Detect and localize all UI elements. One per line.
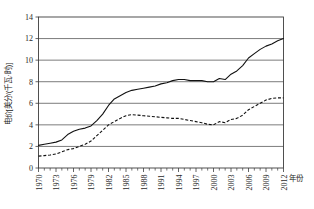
y-tick-label: 8 [29, 78, 33, 87]
y-tick-label: 4 [29, 121, 33, 130]
y-tick-label: 14 [25, 13, 33, 22]
data-series [39, 39, 284, 157]
x-axis-tick-labels: 1970197319761979198219851988199119941997… [35, 175, 289, 191]
y-tick-label: 0 [29, 164, 33, 173]
x-tick-label: 2012 [280, 175, 289, 191]
electricity-price-chart: 02468101214 1970197319761979198219851988… [0, 0, 314, 209]
x-tick-label: 1976 [70, 175, 79, 191]
x-tick-label: 1988 [140, 175, 149, 191]
y-tick-label: 6 [29, 99, 33, 108]
x-tick-label: 1997 [192, 175, 201, 191]
y-tick-label: 2 [29, 142, 33, 151]
x-tick-label: 2000 [210, 175, 219, 191]
y-tick-label: 10 [25, 56, 33, 65]
plot-border [39, 17, 284, 168]
x-tick-label: 1979 [87, 175, 96, 191]
series-line-solid [39, 39, 284, 146]
x-tick-label: 1970 [35, 175, 44, 191]
x-tick-label: 2006 [245, 175, 254, 191]
x-tick-label: 1994 [175, 175, 184, 191]
x-tick-label: 2003 [227, 175, 236, 191]
series-line-dashed [39, 98, 284, 156]
x-axis-title: 年份 [289, 173, 304, 183]
svg-text:电价[美分/(千瓦·时)]: 电价[美分/(千瓦·时)] [3, 63, 13, 126]
y-axis-tick-labels: 02468101214 [25, 13, 33, 173]
chart-svg: 02468101214 1970197319761979198219851988… [0, 0, 314, 209]
y-axis-title: 电价[美分/(千瓦·时)] [3, 63, 13, 126]
y-tick-label: 12 [25, 34, 33, 43]
plot-frame [39, 17, 284, 168]
svg-text:年份: 年份 [289, 173, 304, 183]
x-tick-label: 1985 [122, 175, 131, 191]
x-tick-label: 2009 [262, 175, 271, 191]
x-tick-label: 1973 [52, 175, 61, 191]
x-tick-label: 1991 [157, 175, 166, 191]
x-axis-ticks [39, 168, 284, 172]
x-tick-label: 1982 [105, 175, 114, 191]
